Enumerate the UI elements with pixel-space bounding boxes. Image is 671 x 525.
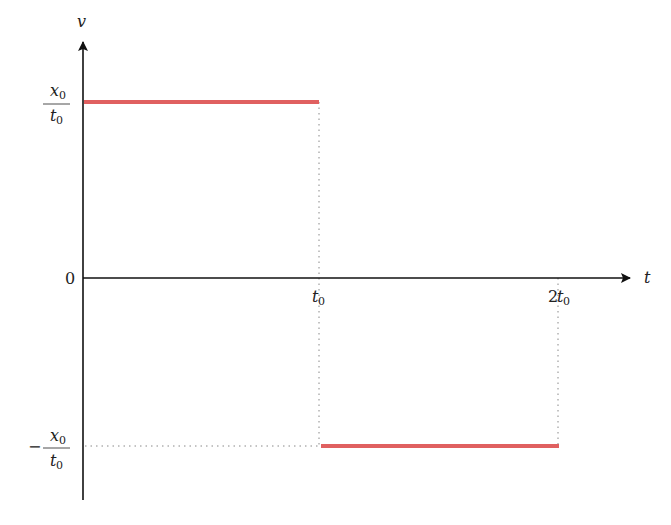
two-t0-tick-label: 2 t 0 xyxy=(548,287,570,308)
svg-text:0: 0 xyxy=(563,295,570,308)
velocity-time-chart: v t 0 t 0 2 t 0 x 0 t 0 − x 0 t 0 xyxy=(0,0,671,525)
svg-text:0: 0 xyxy=(56,459,63,472)
svg-text:x: x xyxy=(50,426,59,445)
svg-text:0: 0 xyxy=(59,89,66,102)
svg-text:−: − xyxy=(28,437,41,456)
origin-tick-label: 0 xyxy=(65,269,75,288)
x-axis-label: t xyxy=(644,268,651,287)
svg-text:0: 0 xyxy=(318,295,325,308)
svg-text:0: 0 xyxy=(59,434,66,447)
neg-y-tick-label: − x 0 t 0 xyxy=(28,426,70,472)
svg-text:x: x xyxy=(50,81,59,100)
svg-text:0: 0 xyxy=(56,114,63,127)
pos-y-tick-label: x 0 t 0 xyxy=(43,81,70,127)
y-axis-label: v xyxy=(77,12,86,31)
